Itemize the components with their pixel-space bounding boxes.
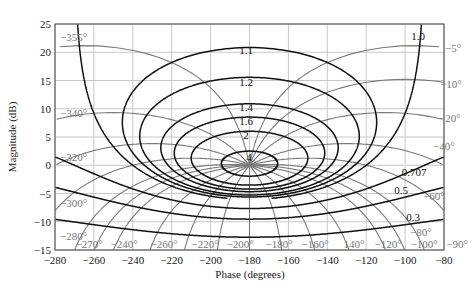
y-tick-label: 10 xyxy=(40,103,52,115)
x-tick-label: −160 xyxy=(277,254,300,266)
x-tick-label: −240 xyxy=(121,254,144,266)
n-contour-label: −90° xyxy=(446,238,468,250)
x-tick-label: −220 xyxy=(160,254,183,266)
x-tick-label: −100 xyxy=(394,254,417,266)
n-contour-label: −160° xyxy=(301,238,328,250)
n-contour-label: −10° xyxy=(440,78,462,90)
x-tick-label: −260 xyxy=(83,254,106,266)
n-contour-label: −40° xyxy=(433,140,455,152)
x-axis-label: Phase (degrees) xyxy=(215,268,285,281)
n-contour-label: −5° xyxy=(445,42,461,54)
n-contour-label: −240° xyxy=(110,238,137,250)
m-contour-label: 1.1 xyxy=(239,44,253,56)
m-contour-label: 1.4 xyxy=(239,101,253,113)
n-contour-label: −100° xyxy=(410,238,437,250)
n-contour-label: −120° xyxy=(374,238,401,250)
n-contour-label: −320° xyxy=(60,151,87,163)
m-contour-label: 0.5 xyxy=(394,184,408,196)
n-contour-label: −80° xyxy=(410,226,432,238)
n-contour-label: −270° xyxy=(75,238,102,250)
x-tick-label: −180 xyxy=(238,254,261,266)
y-tick-label: −5 xyxy=(39,188,51,200)
n-contour-label: 140° xyxy=(344,238,365,250)
y-tick-label: −10 xyxy=(34,216,52,228)
m-contour-label: 4 xyxy=(246,151,252,163)
n-contour-label: −220° xyxy=(191,238,218,250)
n-contour-label: −355° xyxy=(60,31,87,43)
nichols-chart: −280−260−240−220−200−180−160−140−120−100… xyxy=(0,0,476,294)
x-tick-label: −140 xyxy=(316,254,339,266)
m-contour-label: 1.2 xyxy=(239,76,253,88)
y-tick-label: 25 xyxy=(40,18,52,30)
n-contour-label: −300° xyxy=(60,197,87,209)
y-tick-label: −15 xyxy=(34,244,52,256)
m-contour-label: 2 xyxy=(243,129,249,141)
y-axis-label: Magnitude (dB) xyxy=(6,101,19,172)
contour-labels: 1.01.11.21.41.6240.7070.50.3−5°−10°−20°−… xyxy=(60,30,468,250)
y-tick-labels: −15−10−50510152025 xyxy=(34,18,52,256)
m-contour-label: 0.707 xyxy=(402,166,427,178)
x-tick-label: −120 xyxy=(355,254,378,266)
n-contour xyxy=(250,79,444,165)
n-contour-label: −60° xyxy=(423,190,445,202)
y-tick-label: 0 xyxy=(46,159,52,171)
n-contour-label: −180° xyxy=(265,238,292,250)
y-tick-label: 20 xyxy=(40,46,52,58)
n-contour-label: −260° xyxy=(150,238,177,250)
y-tick-label: 15 xyxy=(40,75,52,87)
n-contour-label: −20° xyxy=(439,112,461,124)
m-contour-label: 1.0 xyxy=(411,30,425,42)
m-contour-label: 1.6 xyxy=(239,115,253,127)
y-tick-label: 5 xyxy=(46,131,52,143)
m-contour-label: 0.3 xyxy=(406,211,420,223)
x-tick-labels: −280−260−240−220−200−180−160−140−120−100… xyxy=(44,254,453,266)
n-contour-label: −200° xyxy=(226,238,253,250)
n-contour-label: −340° xyxy=(60,107,87,119)
x-tick-label: −200 xyxy=(199,254,222,266)
x-tick-label: −80 xyxy=(435,254,453,266)
